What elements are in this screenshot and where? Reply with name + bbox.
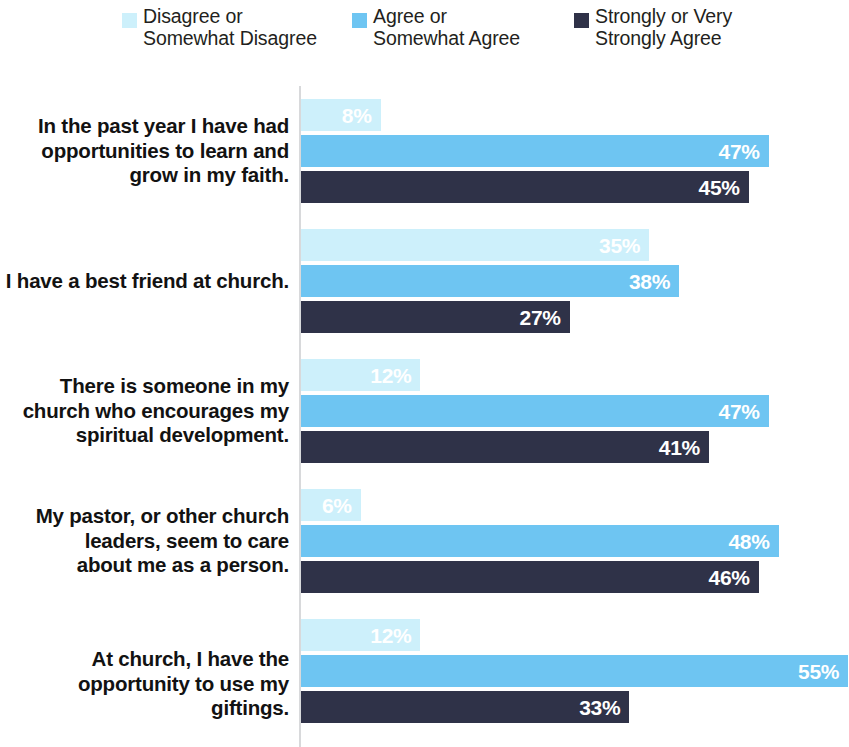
bar: 41% bbox=[301, 431, 709, 463]
bar-group-label: There is someone in my church who encour… bbox=[4, 374, 289, 448]
bar-value-label: 33% bbox=[579, 697, 629, 718]
bar: 46% bbox=[301, 561, 759, 593]
bar: 27% bbox=[301, 301, 570, 333]
bar-group-label: My pastor, or other church leaders, seem… bbox=[4, 504, 289, 578]
legend-swatch-strongly-agree-icon bbox=[574, 13, 589, 28]
bar: 47% bbox=[301, 135, 769, 167]
bar-value-label: 35% bbox=[599, 235, 649, 256]
bar-value-label: 55% bbox=[798, 661, 848, 682]
legend-swatch-agree-icon bbox=[352, 13, 367, 28]
legend-label-disagree: Disagree or Somewhat Disagree bbox=[143, 6, 317, 49]
bar: 48% bbox=[301, 525, 779, 557]
bar-group-bars: 35%38%27% bbox=[301, 229, 679, 333]
bar-groups: In the past year I have had opportunitie… bbox=[0, 86, 849, 747]
bar-group-bars: 12%55%33% bbox=[301, 619, 848, 723]
bar-value-label: 8% bbox=[342, 105, 381, 126]
legend-swatch-disagree-icon bbox=[122, 13, 137, 28]
legend-label-strongly-agree: Strongly or Very Strongly Agree bbox=[595, 6, 732, 49]
bar-value-label: 38% bbox=[629, 271, 679, 292]
bar-value-label: 6% bbox=[322, 495, 361, 516]
legend-label-agree: Agree or Somewhat Agree bbox=[373, 6, 520, 49]
bar: 47% bbox=[301, 395, 769, 427]
bar-value-label: 41% bbox=[659, 437, 709, 458]
bar-value-label: 12% bbox=[370, 365, 420, 386]
bar-group-bars: 8%47%45% bbox=[301, 99, 769, 203]
bar: 6% bbox=[301, 489, 361, 521]
bar-group-bars: 6%48%46% bbox=[301, 489, 779, 593]
bar-group-label: In the past year I have had opportunitie… bbox=[4, 114, 289, 188]
bar-value-label: 48% bbox=[728, 531, 778, 552]
bar: 12% bbox=[301, 359, 420, 391]
legend-item-agree: Agree or Somewhat Agree bbox=[352, 6, 520, 49]
bar-value-label: 27% bbox=[520, 307, 570, 328]
bar-group-label: I have a best friend at church. bbox=[4, 269, 289, 294]
bar-value-label: 47% bbox=[719, 141, 769, 162]
legend-item-strongly-agree: Strongly or Very Strongly Agree bbox=[574, 6, 732, 49]
bar-chart: Disagree or Somewhat Disagree Agree or S… bbox=[0, 0, 849, 747]
bar-value-label: 46% bbox=[709, 567, 759, 588]
legend-item-disagree: Disagree or Somewhat Disagree bbox=[122, 6, 317, 49]
bar: 33% bbox=[301, 691, 629, 723]
bar-group-bars: 12%47%41% bbox=[301, 359, 769, 463]
bar-value-label: 45% bbox=[699, 177, 749, 198]
bar-group-label: At church, I have the opportunity to use… bbox=[4, 647, 289, 721]
bar: 55% bbox=[301, 655, 848, 687]
bar-value-label: 47% bbox=[719, 401, 769, 422]
bar-value-label: 12% bbox=[370, 625, 420, 646]
bar: 8% bbox=[301, 99, 381, 131]
bar: 35% bbox=[301, 229, 649, 261]
bar: 12% bbox=[301, 619, 420, 651]
bar: 38% bbox=[301, 265, 679, 297]
bar: 45% bbox=[301, 171, 749, 203]
chart-legend: Disagree or Somewhat Disagree Agree or S… bbox=[0, 0, 849, 86]
